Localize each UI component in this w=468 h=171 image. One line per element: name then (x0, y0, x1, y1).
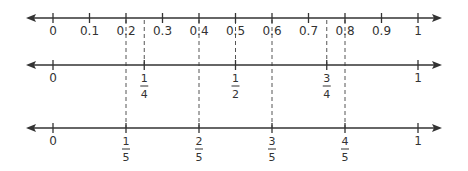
number-lines: 00.10.20.30.40.50.60.70.80.9101412341015… (26, 13, 442, 164)
fraction-label: 14 (140, 72, 148, 101)
fraction-label: 12 (232, 72, 240, 101)
fraction-label: 15 (122, 135, 130, 164)
tick-label: 1 (414, 134, 422, 148)
tick-label: 0 (49, 24, 57, 38)
fraction-numerator: 4 (342, 135, 349, 148)
tick-label: 1 (414, 71, 422, 85)
fraction-numerator: 1 (232, 72, 239, 85)
tick-label: 1 (414, 24, 422, 38)
fraction-denominator: 5 (196, 151, 203, 164)
fraction-denominator: 4 (141, 88, 148, 101)
tick-label: 0 (49, 134, 57, 148)
fraction-numerator: 2 (196, 135, 203, 148)
fraction-numerator: 3 (323, 72, 330, 85)
fraction-label: 35 (268, 135, 276, 164)
fraction-denominator: 5 (342, 151, 349, 164)
fraction-denominator: 2 (232, 88, 239, 101)
fraction-label: 34 (323, 72, 331, 101)
number-lines-canvas: 00.10.20.30.40.50.60.70.80.9101412341015… (0, 0, 468, 171)
tick-label: 0.1 (80, 24, 99, 38)
fraction-denominator: 5 (269, 151, 276, 164)
tick-label: 0.7 (299, 24, 318, 38)
tick-label: 0.2 (116, 24, 135, 38)
tick-label: 0.4 (189, 24, 208, 38)
tick-label: 0.5 (226, 24, 245, 38)
tick-label: 0.6 (262, 24, 281, 38)
fraction-numerator: 3 (269, 135, 276, 148)
number-line-fifths: 0152535451 (26, 123, 442, 164)
tick-label: 0 (49, 71, 57, 85)
tick-label: 0.3 (153, 24, 172, 38)
fraction-denominator: 4 (323, 88, 330, 101)
fraction-numerator: 1 (141, 72, 148, 85)
fraction-denominator: 5 (123, 151, 130, 164)
fraction-label: 25 (195, 135, 203, 164)
number-line-fourths: 01412341 (26, 60, 442, 101)
tick-label: 0.8 (335, 24, 354, 38)
number-line-diagram: 00.10.20.30.40.50.60.70.80.9101412341015… (0, 0, 468, 171)
tick-label: 0.9 (372, 24, 391, 38)
number-line-decimals: 00.10.20.30.40.50.60.70.80.91 (26, 13, 442, 38)
fraction-numerator: 1 (123, 135, 130, 148)
fraction-label: 45 (341, 135, 349, 164)
